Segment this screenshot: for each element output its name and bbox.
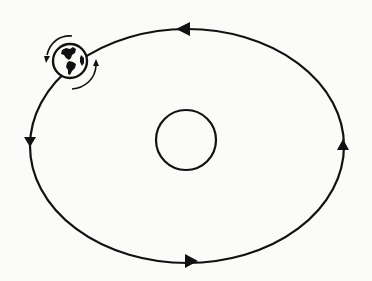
earth [44,36,99,89]
orbit-diagram-svg [0,0,372,281]
arrow-bottom-right-icon [185,254,198,268]
arrow-right-up-icon [337,139,349,150]
sun-circle [156,110,216,170]
rotation-arrowhead-icon [44,56,50,63]
orbit-diagram [0,0,372,281]
rotation-arrowhead-icon [93,59,99,66]
arrow-top-left-icon [176,22,190,36]
arrow-left-down-icon [24,137,36,147]
